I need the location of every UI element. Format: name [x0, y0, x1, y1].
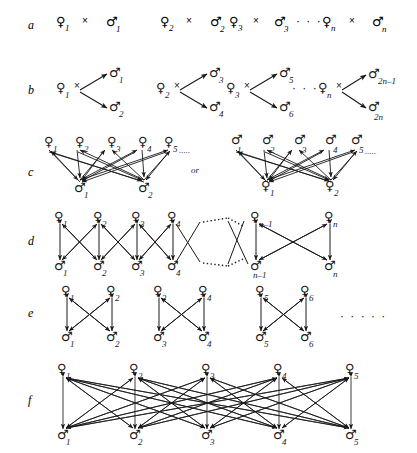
cross-symbol: ×	[336, 80, 342, 91]
cross-symbol: ×	[174, 80, 180, 91]
f-edges	[63, 377, 351, 429]
female-subscript: 2	[165, 90, 170, 100]
female-subscript: 1	[65, 90, 70, 100]
row-label-b: b	[28, 83, 34, 97]
edge	[342, 75, 366, 90]
edge	[80, 92, 107, 108]
male-subscript: 1	[70, 339, 75, 349]
f-bottom-nodes: ♂ 1 ♂ 2 ♂ 3 ♂ 4 ♂ 5	[57, 427, 359, 447]
row-a: ♀ 1 × ♂ 1 ♀ 2 × ♂ 2 ♀ 3 × ♂ 3 · · · ♀ n …	[56, 14, 387, 34]
pair-n: ♀ n × ♂ n	[322, 14, 387, 34]
row-label-d: d	[28, 234, 35, 248]
male-subscript: 4	[207, 339, 212, 349]
male-subscript: 1	[116, 24, 121, 34]
female-subscript: 4	[176, 219, 181, 229]
female-subscript: 1	[65, 23, 70, 33]
male-subscript: 5	[264, 339, 269, 349]
pair-2: ♀ 2 × ♂ 2	[160, 14, 225, 34]
male-subscript: 5	[354, 437, 359, 447]
c-left-top-ellipsis: .....	[179, 145, 190, 155]
row-e: ♀ 1 ♀ 2 ♂ 1 ♂ 2 ♀ 3 ♀ 4 ♂	[61, 283, 387, 349]
edge	[250, 92, 277, 108]
c-right-top-ellipsis: .....	[365, 146, 376, 156]
female-subscript: 1	[63, 219, 68, 229]
b-group-n: ♀ n × ♂ 2n–1 ♂ 2n	[318, 66, 396, 122]
male-subscript: 6	[309, 339, 314, 349]
b-group-2: ♀ 2 × ♂ 3 ♂ 4	[156, 65, 224, 119]
row-c: ♀ 1 ♀ 2 ♀ 3 ♀ 4 ♀ 5 ..... ♂ 1 ♂ 2 or	[44, 132, 376, 200]
c-left-bottom-nodes: ♂ 1 ♂ 2	[74, 180, 153, 200]
male-subscript: 2	[119, 109, 124, 119]
c-left-top-nodes: ♀ 1 ♀ 2 ♀ 3 ♀ 4 ♀ 5 .....	[44, 134, 190, 155]
female-subscript: 1	[66, 371, 71, 381]
edge	[180, 92, 207, 108]
male-subscript: 3	[218, 75, 224, 85]
male-subscript: 3	[139, 268, 145, 278]
female-subscript: 2	[138, 371, 143, 381]
male-subscript: n	[382, 24, 387, 34]
male-subscript: 1	[84, 190, 89, 200]
row-label-group: a b c d e f	[28, 18, 35, 407]
male-subscript: 3	[209, 437, 215, 447]
female-subscript: 1	[70, 293, 75, 303]
edge	[342, 92, 366, 108]
male-subscript: 2	[102, 268, 107, 278]
row-e-ellipsis: · · · · ·	[340, 309, 387, 323]
female-subscript: n–1	[259, 219, 273, 229]
e-group-3: ♀ 5 ♀ 6 ♂ 5 ♂ 6	[255, 283, 314, 349]
male-subscript: 2n	[374, 112, 384, 122]
cross-symbol: ×	[186, 15, 192, 26]
row-label-a: a	[28, 18, 34, 32]
male-subscript: 4	[176, 268, 181, 278]
female-subscript: n	[333, 219, 338, 229]
male-subscript: 1	[66, 437, 71, 447]
female-subscript: n	[331, 23, 336, 33]
d-bottom-nodes: ♂ 1 ♂ 2 ♂ 3 ♂ 4 ♂ n–1 ♂ n	[54, 258, 338, 280]
male-subscript: 3	[283, 24, 289, 34]
female-subscript: 3	[161, 293, 167, 303]
female-subscript: 4	[147, 144, 152, 154]
row-b-ellipsis: · · ·	[292, 81, 318, 95]
female-subscript: 2	[334, 188, 339, 198]
male-subscript: 2	[148, 190, 153, 200]
male-subscript: 3	[161, 339, 167, 349]
e-group-1: ♀ 1 ♀ 2 ♂ 1 ♂ 2	[61, 283, 120, 349]
row-a-ellipsis: · · ·	[296, 14, 322, 28]
c-right-top-nodes: ♂ 1 ♂ 2 ♂ 3 ♂ 4 ♂ 5 .....	[231, 132, 376, 156]
male-subscript: 2	[220, 24, 225, 34]
male-subscript: 1	[237, 145, 242, 155]
row-f: ♀ 1 ♀ 2 ♀ 3 ♀ 4 ♀ 5 ♂ 1 ♂ 2 ♂ 3 ♂ 4 ♂ 5	[57, 361, 359, 447]
cross-symbol: ×	[349, 15, 355, 26]
mating-scheme-figure: a b c d e f ♀ 1 × ♂ 1 ♀ 2 × ♂ 2 ♀ 3 × ♂ …	[0, 0, 417, 453]
female-subscript: 2	[169, 23, 174, 33]
row-label-e: e	[28, 306, 34, 320]
edges	[236, 150, 357, 182]
female-subscript: 1	[53, 144, 58, 154]
female-subscript: 1	[270, 188, 275, 198]
edge	[250, 74, 277, 90]
row-label-c: c	[28, 165, 34, 179]
female-subscript: 2	[102, 219, 107, 229]
pair-3: ♀ 3 × ♂ 3	[229, 14, 289, 34]
female-subscript: 5	[354, 371, 359, 381]
male-subscript: 3	[301, 145, 307, 155]
female-subscript: 3	[115, 144, 121, 154]
c-left: ♀ 1 ♀ 2 ♀ 3 ♀ 4 ♀ 5 ..... ♂ 1 ♂ 2	[44, 134, 190, 200]
male-subscript: 2	[115, 339, 120, 349]
female-subscript: 3	[209, 371, 215, 381]
female-subscript: 3	[139, 219, 145, 229]
female-subscript: 4	[282, 371, 287, 381]
female-subscript: 3	[234, 90, 240, 100]
male-subscript: n–1	[253, 270, 267, 280]
male-subscript: 6	[289, 109, 294, 119]
female-subscript: 2	[115, 293, 120, 303]
cross-symbol: ×	[74, 80, 80, 91]
female-subscript: 3	[237, 23, 243, 33]
edges	[49, 150, 170, 182]
c-right: ♂ 1 ♂ 2 ♂ 3 ♂ 4 ♂ 5 ..... ♀ 1 ♀ 2	[231, 132, 376, 198]
male-subscript: 2	[138, 437, 143, 447]
cross-symbol: ×	[253, 15, 259, 26]
male-subscript: n	[333, 269, 338, 279]
female-subscript: 5	[264, 293, 269, 303]
female-subscript: 4	[207, 293, 212, 303]
